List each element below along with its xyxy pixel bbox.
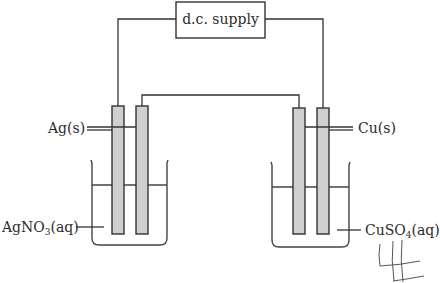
left-electrodes: [112, 106, 148, 234]
cuso4-label: CuSO4(aq): [365, 222, 440, 240]
handwritten-mark: [379, 240, 424, 282]
ag-electrode-2: [136, 106, 148, 234]
right-beaker: [271, 162, 350, 247]
electrolysis-diagram: d.c. supply Ag(s) Cu(s) AgNO3(aq) CuSO4(…: [0, 0, 440, 283]
cu-electrode-1: [293, 108, 305, 234]
dc-supply: d.c. supply: [176, 2, 265, 38]
dc-supply-label: d.c. supply: [182, 11, 259, 27]
ag-electrode-1: [112, 106, 124, 234]
cu-electrode-label: Cu(s): [358, 120, 396, 136]
agno3-label: AgNO3(aq): [1, 219, 79, 237]
ag-electrode-label: Ag(s): [47, 120, 85, 136]
left-beaker: [91, 160, 168, 245]
